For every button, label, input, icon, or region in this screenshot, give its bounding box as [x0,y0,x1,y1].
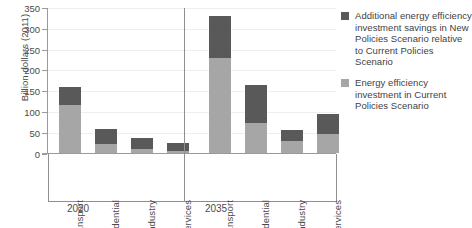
bar-2020-transport [59,87,81,153]
chart-container: Billion dollars (2011) 350 300 250 200 1… [0,0,472,228]
group-label-2020: 2020 [38,203,118,214]
bar-segment-additional [281,130,303,141]
category-labels: TransportResidentialIndustryServicesTran… [48,154,336,202]
legend-label: Energy efficiency investment in Current … [355,77,472,112]
bar-segment-base [281,141,303,153]
bar-segment-additional [131,138,153,149]
bar-segment-base [95,144,117,153]
bar-2035-transport [209,16,231,153]
group-frame-right [336,154,337,202]
category-label-residential: Residential [260,200,271,228]
legend-swatch-icon [341,79,349,87]
y-tick-label: 350 [0,3,40,14]
y-tick-label: 300 [0,23,40,34]
bar-segment-base [209,58,231,153]
y-tick-label: 0 [0,148,40,159]
bar-segment-base [245,123,267,153]
y-tick-label: 150 [0,86,40,97]
bar-2035-services [317,114,339,153]
bar-segment-additional [167,143,189,152]
plot-area [48,8,336,153]
legend-entry-base: Energy efficiency investment in Current … [341,77,472,112]
bar-segment-base [59,105,81,153]
y-axis-tick-labels: 350 300 250 200 150 100 50 0 [0,0,40,161]
y-tick-label: 50 [0,127,40,138]
legend-swatch-icon [341,12,349,20]
legend-label: Additional energy efficiency investment … [355,10,472,68]
group-label-2035: 2035 [176,203,256,214]
bar-segment-base [317,134,339,153]
bar-segment-additional [245,85,267,124]
category-label-services: Services [332,200,343,228]
category-label-industry: Industry [146,200,157,228]
chart-legend: Additional energy efficiency investment … [341,10,472,121]
bar-segment-additional [59,87,81,106]
bars-layer [48,8,336,153]
legend-entry-additional: Additional energy efficiency investment … [341,10,472,68]
bar-2020-services [167,143,189,153]
bar-segment-additional [209,16,231,57]
y-tick-label: 250 [0,44,40,55]
bar-2020-residential [95,129,117,153]
y-tick-label: 100 [0,107,40,118]
bar-2020-industry [131,138,153,153]
y-tick-label: 200 [0,65,40,76]
category-label-industry: Industry [296,200,307,228]
bar-segment-additional [95,129,117,144]
bar-segment-base [167,151,189,153]
bar-2035-industry [281,130,303,153]
bar-segment-base [131,149,153,153]
bar-2035-residential [245,85,267,153]
bar-segment-additional [317,114,339,135]
group-divider [184,8,185,154]
